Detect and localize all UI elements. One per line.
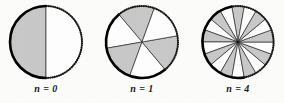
circle-panel-n1: n = 1: [96, 0, 188, 95]
shaded-sector: [10, 6, 46, 78]
panel-label-n0: n = 0: [34, 83, 57, 95]
circle-diagram-n0: [6, 2, 86, 82]
circle-svg-n0: [6, 2, 86, 82]
circle-diagram-n4: [198, 2, 278, 82]
circle-panel-n4: n = 4: [192, 0, 284, 95]
figure-root: n = 0 n = 1 n = 4: [0, 0, 284, 103]
panel-label-n1: n = 1: [130, 83, 153, 95]
circle-svg-n1: [102, 2, 182, 82]
unshaded-sector: [46, 6, 82, 78]
circle-panel-group: n = 0 n = 1 n = 4: [0, 0, 284, 103]
circle-diagram-n1: [102, 2, 182, 82]
circle-svg-n4: [198, 2, 278, 82]
panel-label-n4: n = 4: [226, 83, 249, 95]
circle-panel-n0: n = 0: [0, 0, 92, 95]
